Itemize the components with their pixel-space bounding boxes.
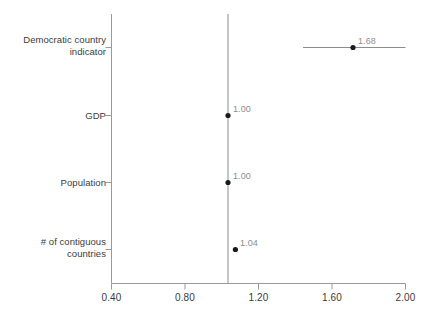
data-point-democratic-country-indicator[interactable]	[350, 45, 355, 50]
category-label-contiguous-countries: # of contiguous countries	[0, 236, 106, 259]
category-label-population: Population	[0, 177, 106, 189]
x-tick-label-2: 1.20	[235, 292, 283, 304]
x-tick-label-4: 2.00	[382, 292, 430, 304]
x-tick-label-1: 0.80	[161, 292, 209, 304]
data-point-population[interactable]	[225, 180, 230, 185]
x-tick-label-3: 1.60	[308, 292, 356, 304]
x-tick-label-0: 0.40	[88, 292, 136, 304]
plot-area: Democratic country indicator GDP Populat…	[0, 0, 436, 319]
category-label-gdp: GDP	[0, 110, 106, 122]
data-point-contiguous-countries[interactable]	[233, 247, 238, 252]
category-label-democratic-country-indicator: Democratic country indicator	[0, 34, 106, 57]
value-label-gdp: 1.00	[233, 104, 251, 114]
forest-plot-figure: Democratic country indicator GDP Populat…	[0, 0, 436, 319]
value-label-democratic-country-indicator: 1.68	[358, 36, 376, 46]
data-point-gdp[interactable]	[225, 113, 230, 118]
value-label-contiguous-countries: 1.04	[240, 238, 258, 248]
value-label-population: 1.00	[233, 171, 251, 181]
